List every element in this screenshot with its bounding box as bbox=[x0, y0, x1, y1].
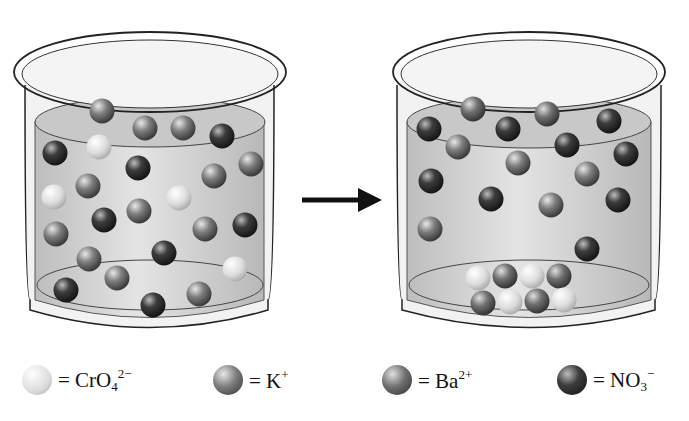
potassium-ion bbox=[44, 222, 69, 247]
legend-item-barium: = Ba2+ bbox=[382, 362, 472, 398]
nitrate-ion bbox=[126, 156, 151, 181]
chromate-ion bbox=[520, 264, 545, 289]
potassium-ion bbox=[239, 152, 264, 177]
nitrate-ion bbox=[555, 133, 580, 158]
potassium-ion bbox=[76, 174, 101, 199]
legend-label: = Ba2+ bbox=[418, 367, 472, 394]
nitrate-ion bbox=[417, 117, 442, 142]
chromate-ion bbox=[466, 266, 491, 291]
potassium-ion bbox=[193, 217, 218, 242]
barium-ion bbox=[461, 97, 486, 122]
chromate-ion bbox=[498, 290, 523, 315]
nitrate-ion bbox=[597, 109, 622, 134]
barium-ball-icon bbox=[382, 365, 412, 395]
barium-ion bbox=[547, 264, 572, 289]
nitrate-ion bbox=[43, 141, 68, 166]
potassium-ion bbox=[127, 199, 152, 224]
legend-item-potassium: = K+ bbox=[213, 362, 289, 398]
barium-ion bbox=[525, 289, 550, 314]
barium-ion bbox=[493, 264, 518, 289]
nitrate-ion bbox=[606, 188, 631, 213]
potassium-ion bbox=[187, 282, 212, 307]
chromate-ion bbox=[42, 185, 67, 210]
chromate-ball-icon bbox=[22, 365, 52, 395]
legend-label: = K+ bbox=[249, 367, 289, 394]
nitrate-ion bbox=[496, 117, 521, 142]
chromate-ion bbox=[87, 135, 112, 160]
chromate-ion bbox=[167, 186, 192, 211]
nitrate-ion bbox=[419, 169, 444, 194]
nitrate-ion bbox=[141, 293, 166, 318]
nitrate-ion bbox=[575, 237, 600, 262]
nitrate-ion bbox=[233, 213, 258, 238]
potassium-ion bbox=[202, 164, 227, 189]
nitrate-ion bbox=[152, 241, 177, 266]
potassium-ion bbox=[105, 266, 130, 291]
potassium-ion bbox=[133, 116, 158, 141]
potassium-ion bbox=[446, 135, 471, 160]
beaker-after bbox=[393, 32, 665, 328]
barium-ion bbox=[471, 291, 496, 316]
barium-ion bbox=[535, 102, 560, 127]
potassium-ion bbox=[418, 217, 443, 242]
chromate-ion bbox=[552, 288, 577, 313]
legend-item-chromate: = CrO42− bbox=[22, 362, 132, 398]
potassium-ion bbox=[506, 151, 531, 176]
nitrate-ion bbox=[614, 142, 639, 167]
chromate-ion bbox=[223, 257, 248, 282]
nitrate-ion bbox=[210, 124, 235, 149]
nitrate-ion bbox=[479, 187, 504, 212]
potassium-ball-icon bbox=[213, 365, 243, 395]
beaker-before bbox=[14, 32, 286, 328]
nitrate-ion bbox=[92, 208, 117, 233]
nitrate-ball-icon bbox=[557, 365, 587, 395]
potassium-ion bbox=[90, 99, 115, 124]
reaction-diagram bbox=[0, 0, 689, 421]
legend-label: = CrO42− bbox=[58, 366, 132, 395]
legend-item-nitrate: = NO3− bbox=[557, 362, 654, 398]
potassium-ion bbox=[171, 116, 196, 141]
potassium-ion bbox=[575, 162, 600, 187]
legend-label: = NO3− bbox=[593, 366, 654, 395]
potassium-ion bbox=[539, 193, 564, 218]
potassium-ion bbox=[77, 247, 102, 272]
nitrate-ion bbox=[54, 278, 79, 303]
reaction-arrow-icon bbox=[302, 188, 382, 212]
